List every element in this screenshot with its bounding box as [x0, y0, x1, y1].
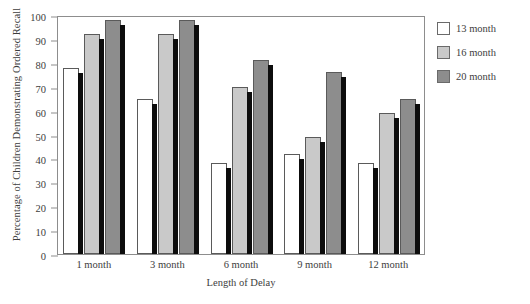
x-axis-tick-label: 6 month	[201, 259, 281, 270]
bar-shadow	[415, 104, 420, 254]
y-axis-tick-label: 30	[20, 179, 51, 190]
legend-item: 16 month	[437, 46, 496, 59]
y-axis-tick: 50	[20, 131, 58, 142]
bar-group	[284, 17, 347, 254]
y-axis-tick-mark	[51, 88, 58, 89]
x-axis-tick-label: 1 month	[54, 259, 134, 270]
y-axis-tick-mark	[51, 136, 58, 137]
legend-label: 16 month	[456, 47, 496, 58]
bar	[211, 163, 227, 254]
bar-shadow	[226, 168, 231, 254]
y-axis-tick-label: 60	[20, 107, 51, 118]
bar-shadow	[152, 104, 157, 254]
bar	[379, 113, 395, 254]
plot-area: 0102030405060708090100	[57, 16, 425, 255]
y-axis-tick-label: 100	[20, 12, 51, 23]
bar	[63, 68, 79, 254]
bar-shadow	[394, 118, 399, 254]
y-axis-tick-mark	[51, 232, 58, 233]
bar	[179, 20, 195, 254]
y-axis-tick-label: 90	[20, 35, 51, 46]
bar-group	[211, 17, 274, 254]
bar	[105, 20, 121, 254]
bar	[84, 34, 100, 254]
y-axis-tick: 90	[20, 35, 58, 46]
legend-swatch	[437, 46, 450, 59]
y-axis-tick-mark	[51, 256, 58, 257]
bar	[232, 87, 248, 254]
bar-shadow	[268, 65, 273, 254]
x-axis-tick-label: 12 month	[348, 259, 428, 270]
bar	[158, 34, 174, 254]
y-axis-tick: 70	[20, 83, 58, 94]
bar-shadow	[120, 25, 125, 254]
bar-group	[358, 17, 421, 254]
legend-swatch	[437, 22, 450, 35]
bar-shadow	[78, 73, 83, 254]
x-axis-tick-label: 9 month	[275, 259, 355, 270]
y-axis-tick: 100	[20, 12, 58, 23]
y-axis-tick: 0	[20, 251, 58, 262]
bar-shadow	[194, 25, 199, 254]
x-axis-tick-label: 3 month	[127, 259, 207, 270]
y-axis-tick-label: 80	[20, 59, 51, 70]
y-axis-tick-mark	[51, 112, 58, 113]
y-axis-tick-mark	[51, 160, 58, 161]
legend-item: 20 month	[437, 70, 496, 83]
bar-shadow	[373, 168, 378, 254]
y-axis-tick-mark	[51, 40, 58, 41]
y-axis-tick: 60	[20, 107, 58, 118]
bar	[253, 60, 269, 254]
bar-shadow	[320, 142, 325, 254]
y-axis-tick: 30	[20, 179, 58, 190]
bar-shadow	[341, 77, 346, 254]
y-axis-tick: 10	[20, 227, 58, 238]
y-axis-tick-mark	[51, 184, 58, 185]
y-axis-tick-label: 70	[20, 83, 51, 94]
y-axis-tick: 40	[20, 155, 58, 166]
bar-shadow	[299, 159, 304, 254]
bar	[137, 99, 153, 254]
bar	[326, 72, 342, 254]
x-axis-title: Length of Delay	[57, 277, 425, 288]
bar-group	[137, 17, 200, 254]
legend-label: 20 month	[456, 71, 496, 82]
bar	[358, 163, 374, 254]
legend-label: 13 month	[456, 23, 496, 34]
bar	[400, 99, 416, 254]
y-axis-tick-mark	[51, 17, 58, 18]
y-axis-tick-label: 20	[20, 203, 51, 214]
y-axis-tick-mark	[51, 64, 58, 65]
bar-shadow	[99, 39, 104, 254]
y-axis-tick-mark	[51, 208, 58, 209]
bar-shadow	[173, 39, 178, 254]
legend-item: 13 month	[437, 22, 496, 35]
y-axis-tick-label: 40	[20, 155, 51, 166]
bar-shadow	[247, 92, 252, 254]
y-axis-tick: 20	[20, 203, 58, 214]
bar-series-container	[58, 17, 424, 254]
y-axis-tick-label: 50	[20, 131, 51, 142]
legend: 13 month16 month20 month	[437, 22, 496, 83]
y-axis-tick-label: 10	[20, 227, 51, 238]
legend-swatch	[437, 70, 450, 83]
bar	[284, 154, 300, 254]
bar-group	[63, 17, 126, 254]
bar	[305, 137, 321, 254]
y-axis-tick: 80	[20, 59, 58, 70]
y-axis-tick-label: 0	[20, 251, 51, 262]
bar-chart-figure: Percentage of Children Demonstrating Ord…	[0, 0, 530, 304]
